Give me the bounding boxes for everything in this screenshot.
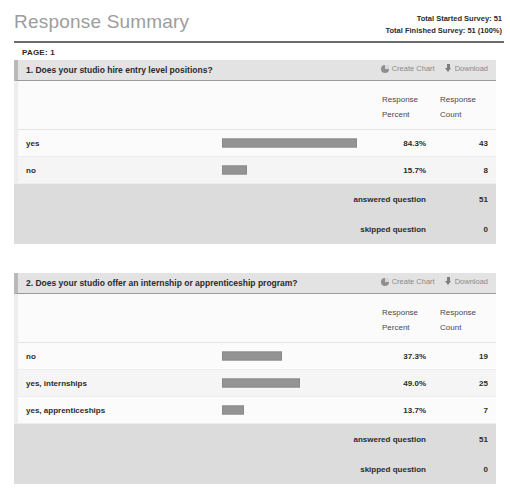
- table-row: yes 84.3% 43: [18, 130, 496, 157]
- question-1-title: 1. Does your studio hire entry level pos…: [26, 65, 213, 75]
- response-percent: 84.3%: [403, 139, 426, 148]
- question-block-2: 2. Does your studio offer an internship …: [14, 273, 496, 484]
- download-label: Download: [455, 64, 488, 73]
- response-count: 8: [484, 166, 488, 175]
- col-percent-line2: Percent: [382, 320, 434, 335]
- answer-label: no: [26, 352, 36, 361]
- column-header-row: Response Percent Response Count: [18, 81, 496, 130]
- create-chart-button-2[interactable]: Create Chart: [381, 277, 435, 286]
- response-count: 7: [484, 406, 488, 415]
- skipped-question-value: 0: [484, 465, 488, 474]
- create-chart-label: Create Chart: [392, 277, 435, 286]
- col-percent-line2: Percent: [382, 107, 434, 122]
- page-title: Response Summary: [14, 11, 189, 33]
- response-count: 43: [479, 139, 488, 148]
- col-percent-line1: Response: [382, 92, 434, 107]
- create-chart-button-1[interactable]: Create Chart: [381, 64, 435, 73]
- page-header: Response Summary Total Started Survey: 5…: [0, 0, 510, 34]
- answered-question-value: 51: [479, 195, 488, 204]
- answered-question-row: answered question 51: [18, 424, 496, 454]
- question-2-summary: answered question 51 skipped question 0: [14, 424, 496, 484]
- question-block-1: 1. Does your studio hire entry level pos…: [14, 60, 496, 244]
- create-chart-label: Create Chart: [392, 64, 435, 73]
- skipped-question-label: skipped question: [360, 225, 426, 234]
- column-header-response-count: Response Count: [440, 92, 492, 122]
- question-2-title: 2. Does your studio offer an internship …: [26, 278, 298, 288]
- header-divider: [14, 41, 504, 43]
- response-percent: 15.7%: [403, 166, 426, 175]
- table-row: yes, internships 49.0% 25: [18, 370, 496, 397]
- skipped-question-value: 0: [484, 225, 488, 234]
- col-count-line1: Response: [440, 92, 492, 107]
- response-percent: 37.3%: [403, 352, 426, 361]
- question-2-actions: Create Chart Download: [381, 277, 488, 286]
- response-bar: [222, 379, 300, 388]
- response-bar: [222, 406, 244, 415]
- table-row: yes, apprenticeships 13.7% 7: [18, 397, 496, 424]
- column-header-response-percent: Response Percent: [382, 92, 434, 122]
- question-1-table: Response Percent Response Count yes 84.3…: [14, 81, 496, 184]
- bar-cell: [222, 406, 382, 415]
- skipped-question-label: skipped question: [360, 465, 426, 474]
- response-summary-page: Response Summary Total Started Survey: 5…: [0, 0, 510, 502]
- skipped-question-row: skipped question 0: [18, 454, 496, 484]
- answer-label: yes, apprenticeships: [26, 406, 105, 415]
- download-label: Download: [455, 277, 488, 286]
- bar-cell: [222, 379, 382, 388]
- column-header-response-count: Response Count: [440, 305, 492, 335]
- response-bar: [222, 352, 282, 361]
- col-count-line2: Count: [440, 107, 492, 122]
- response-percent: 13.7%: [403, 406, 426, 415]
- answer-label: no: [26, 166, 36, 175]
- col-count-line1: Response: [440, 305, 492, 320]
- answer-label: yes: [26, 139, 39, 148]
- answered-question-value: 51: [479, 435, 488, 444]
- download-button-2[interactable]: Download: [445, 277, 488, 286]
- pie-chart-icon: [381, 278, 389, 286]
- question-2-header: 2. Does your studio offer an internship …: [14, 273, 496, 294]
- answered-question-label: answered question: [354, 435, 426, 444]
- question-2-table: Response Percent Response Count no 37.3%…: [14, 294, 496, 424]
- total-finished-survey: Total Finished Survey: 51 (100%): [385, 25, 502, 37]
- answered-question-row: answered question 51: [18, 184, 496, 214]
- answer-label: yes, internships: [26, 379, 87, 388]
- table-row: no 37.3% 19: [18, 343, 496, 370]
- col-percent-line1: Response: [382, 305, 434, 320]
- download-arrow-icon: [445, 277, 452, 286]
- total-started-survey: Total Started Survey: 51: [385, 13, 502, 25]
- survey-totals: Total Started Survey: 51 Total Finished …: [385, 13, 502, 36]
- question-1-summary: answered question 51 skipped question 0: [14, 184, 496, 244]
- bar-cell: [222, 352, 382, 361]
- question-1-header: 1. Does your studio hire entry level pos…: [14, 60, 496, 81]
- bar-cell: [222, 166, 382, 175]
- response-bar: [222, 166, 247, 175]
- response-count: 19: [479, 352, 488, 361]
- response-bar: [222, 139, 357, 148]
- response-count: 25: [479, 379, 488, 388]
- response-percent: 49.0%: [403, 379, 426, 388]
- pie-chart-icon: [381, 65, 389, 73]
- page-number-label: PAGE: 1: [22, 48, 55, 57]
- question-1-actions: Create Chart Download: [381, 64, 488, 73]
- table-row: no 15.7% 8: [18, 157, 496, 184]
- download-button-1[interactable]: Download: [445, 64, 488, 73]
- skipped-question-row: skipped question 0: [18, 214, 496, 244]
- download-arrow-icon: [445, 64, 452, 73]
- col-count-line2: Count: [440, 320, 492, 335]
- answered-question-label: answered question: [354, 195, 426, 204]
- bar-cell: [222, 139, 382, 148]
- column-header-response-percent: Response Percent: [382, 305, 434, 335]
- column-header-row: Response Percent Response Count: [18, 294, 496, 343]
